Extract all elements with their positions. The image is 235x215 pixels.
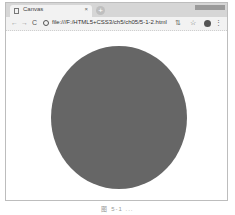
- close-icon[interactable]: ×: [84, 6, 88, 12]
- page-icon: [14, 8, 19, 14]
- canvas-circle: [51, 46, 187, 189]
- window-controls[interactable]: [195, 5, 225, 10]
- info-icon[interactable]: [43, 20, 49, 26]
- reload-icon[interactable]: C: [32, 19, 37, 26]
- page-viewport: [6, 31, 227, 200]
- browser-window: Canvas × + ← → C file:///F:/HTML5+CSS3/c…: [5, 2, 228, 201]
- menu-icon[interactable]: ⋮: [215, 19, 222, 27]
- tab-canvas[interactable]: Canvas ×: [10, 5, 92, 17]
- new-tab-button[interactable]: +: [96, 6, 105, 15]
- browser-toolbar: ← → C file:///F:/HTML5+CSS3/ch5/ch05/5-1…: [6, 17, 227, 31]
- tab-title: Canvas: [23, 6, 43, 12]
- account-icon[interactable]: [204, 20, 211, 27]
- back-icon[interactable]: ←: [11, 19, 18, 26]
- figure-caption: 图 5-1 ...: [0, 204, 235, 213]
- bookmark-star-icon[interactable]: ☆: [190, 19, 196, 27]
- tab-strip: Canvas × +: [6, 3, 227, 17]
- extension-icon[interactable]: ⇅: [175, 19, 181, 27]
- address-bar[interactable]: file:///F:/HTML5+CSS3/ch5/ch05/5-1-2.htm…: [52, 19, 167, 25]
- forward-icon[interactable]: →: [21, 19, 28, 26]
